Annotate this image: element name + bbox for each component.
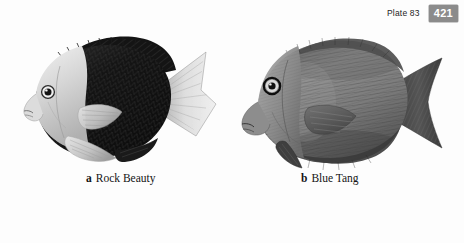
blue-tang-eye	[264, 78, 280, 94]
caption-figure-b: bBlue Tang	[301, 172, 359, 184]
caption-letter-a: a	[86, 172, 92, 184]
caption-letter-b: b	[301, 172, 307, 184]
figure-b-blue-tang	[232, 16, 460, 174]
figure-captions: aRock Beauty bBlue Tang	[0, 172, 464, 192]
caption-name-a: Rock Beauty	[96, 172, 156, 184]
figure-a-rock-beauty	[8, 16, 223, 174]
rock-beauty-eye	[42, 86, 55, 99]
blue-tang-fish-illustration	[232, 16, 460, 174]
plate-page: Plate 83 421	[0, 0, 464, 243]
caption-name-b: Blue Tang	[311, 172, 358, 184]
plate-illustration-area	[0, 16, 464, 176]
rock-beauty-head	[24, 46, 90, 152]
caption-figure-a: aRock Beauty	[86, 172, 155, 184]
rock-beauty-fish-illustration	[8, 16, 223, 174]
